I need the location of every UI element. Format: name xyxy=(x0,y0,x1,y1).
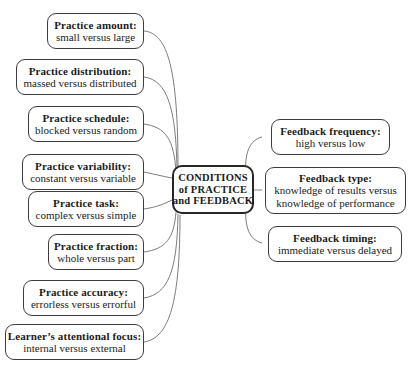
center-line-3: and FEEDBACK xyxy=(173,195,253,207)
node-practice-fraction[interactable]: Practice fraction: whole versus part xyxy=(48,234,144,270)
node-center-conditions[interactable]: CONDITIONS of PRACTICE and FEEDBACK xyxy=(172,165,254,214)
node-practice-distribution[interactable]: Practice distribution: massed versus dis… xyxy=(16,59,144,95)
node-subtitle-line-2: knowledge of performance xyxy=(276,197,395,209)
connector-practice-amount xyxy=(144,31,178,168)
node-practice-schedule[interactable]: Practice schedule: blocked versus random xyxy=(28,106,144,142)
node-feedback-type[interactable]: Feedback type: knowledge of results vers… xyxy=(265,167,406,214)
node-subtitle: small versus large xyxy=(56,31,135,43)
node-subtitle-line-1: knowledge of results versus xyxy=(274,184,397,196)
connector-practice-schedule xyxy=(144,124,176,172)
connector-practice-task xyxy=(144,200,172,209)
node-title: Practice task: xyxy=(53,197,119,209)
node-subtitle: massed versus distributed xyxy=(23,77,136,89)
connector-practice-variability xyxy=(144,172,172,178)
node-title: Practice fraction: xyxy=(54,240,138,252)
center-line-1: CONDITIONS xyxy=(178,172,248,184)
center-line-2: of PRACTICE xyxy=(179,184,247,196)
node-title: Practice amount: xyxy=(54,19,137,31)
node-subtitle: errorless versus errorful xyxy=(31,298,136,310)
concept-map-diagram: Practice amount: small versus large Prac… xyxy=(0,0,414,370)
connector-learner-attentional-focus xyxy=(144,215,180,342)
node-practice-task[interactable]: Practice task: complex versus simple xyxy=(28,191,144,227)
node-learner-attentional-focus[interactable]: Learner’s attentional focus: internal ve… xyxy=(5,324,144,360)
node-subtitle: blocked versus random xyxy=(35,124,137,136)
node-practice-variability[interactable]: Practice variability: constant versus va… xyxy=(22,154,144,190)
node-title: Practice accuracy: xyxy=(39,286,128,298)
node-practice-amount[interactable]: Practice amount: small versus large xyxy=(47,13,144,49)
node-title: Practice schedule: xyxy=(42,112,129,124)
node-feedback-frequency[interactable]: Feedback frequency: high versus low xyxy=(271,119,390,155)
node-title: Practice variability: xyxy=(35,160,131,172)
connector-practice-distribution xyxy=(144,77,177,170)
connector-practice-fraction xyxy=(144,212,176,252)
connector-practice-accuracy xyxy=(144,214,178,298)
node-subtitle: whole versus part xyxy=(57,252,135,264)
node-subtitle: constant versus variable xyxy=(30,172,136,184)
node-feedback-timing[interactable]: Feedback timing: immediate versus delaye… xyxy=(268,226,402,262)
node-title: Practice distribution: xyxy=(29,65,132,77)
node-title: Feedback timing: xyxy=(293,232,377,244)
node-subtitle: high versus low xyxy=(296,137,366,149)
node-practice-accuracy[interactable]: Practice accuracy: errorless versus erro… xyxy=(23,280,144,316)
node-subtitle: complex versus simple xyxy=(36,209,137,221)
node-subtitle: internal versus external xyxy=(23,342,126,354)
node-title: Feedback type: xyxy=(299,172,372,184)
node-title: Feedback frequency: xyxy=(280,125,380,137)
node-title: Learner’s attentional focus: xyxy=(8,330,141,342)
node-subtitle: immediate versus delayed xyxy=(278,244,392,256)
